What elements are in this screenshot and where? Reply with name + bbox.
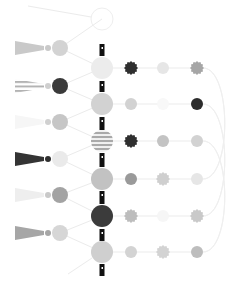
gear-node-icon[interactable] xyxy=(124,134,138,148)
knob-icon xyxy=(45,119,51,125)
right-node[interactable] xyxy=(157,210,169,222)
tassel-shape xyxy=(15,152,51,166)
spine-segment xyxy=(100,81,105,92)
gear-node-icon[interactable] xyxy=(156,245,170,259)
spine-segment xyxy=(100,229,105,241)
knob-icon xyxy=(45,156,51,162)
curved-edge xyxy=(203,104,225,216)
left-node[interactable] xyxy=(52,225,68,241)
gear-node-icon[interactable] xyxy=(190,61,204,75)
edge xyxy=(68,258,92,274)
center-node-striped[interactable] xyxy=(91,130,113,152)
tassel-shape xyxy=(15,188,51,202)
knob-icon xyxy=(45,45,51,51)
gear-node-icon[interactable] xyxy=(156,172,170,186)
left-node[interactable] xyxy=(52,114,68,130)
curved-edge xyxy=(203,68,225,179)
spine-notch xyxy=(102,232,104,234)
tassels-layer xyxy=(15,41,51,240)
curved-edge xyxy=(203,141,225,252)
tassel-shape xyxy=(15,115,51,129)
spine-notch xyxy=(102,267,104,269)
right-node[interactable] xyxy=(191,246,203,258)
curved-edge xyxy=(203,104,225,216)
center-node[interactable] xyxy=(91,57,113,79)
left-node[interactable] xyxy=(52,187,68,203)
left-node[interactable] xyxy=(52,151,68,167)
center-node[interactable] xyxy=(91,205,113,227)
right-node[interactable] xyxy=(157,135,169,147)
edge xyxy=(28,6,91,17)
spine-notch xyxy=(102,120,104,122)
right-node[interactable] xyxy=(157,98,169,110)
spine-segment xyxy=(100,191,105,204)
spine-segment xyxy=(100,153,105,167)
right-node[interactable] xyxy=(157,62,169,74)
left-nodes-layer xyxy=(52,40,68,241)
knob-icon xyxy=(45,230,51,236)
right-node[interactable] xyxy=(125,173,137,185)
gear-node-icon[interactable] xyxy=(124,209,138,223)
knob-icon xyxy=(45,83,51,89)
gear-node-icon[interactable] xyxy=(190,209,204,223)
center-node[interactable] xyxy=(91,168,113,190)
right-node[interactable] xyxy=(191,98,203,110)
knob-icon xyxy=(45,192,51,198)
right-nodes-layer xyxy=(124,61,204,259)
curved-edge xyxy=(203,141,225,252)
center-node[interactable] xyxy=(91,241,113,263)
right-node[interactable] xyxy=(191,173,203,185)
left-node[interactable] xyxy=(52,78,68,94)
right-node[interactable] xyxy=(191,135,203,147)
spine-segment xyxy=(100,44,105,56)
spine-notch xyxy=(102,194,104,196)
spine-notch xyxy=(102,84,104,86)
network-diagram xyxy=(0,0,244,295)
right-node[interactable] xyxy=(125,246,137,258)
spine-notch xyxy=(102,47,104,49)
spine-notch xyxy=(102,156,104,158)
left-node[interactable] xyxy=(52,40,68,56)
curved-edge xyxy=(203,68,225,179)
tassel-shape xyxy=(15,226,51,240)
gear-node-icon[interactable] xyxy=(124,61,138,75)
diagram-canvas xyxy=(0,0,244,295)
tassel-shape xyxy=(15,41,51,55)
center-node[interactable] xyxy=(91,93,113,115)
right-node[interactable] xyxy=(125,98,137,110)
tassel-shape xyxy=(15,79,51,93)
spine-segment xyxy=(100,264,105,276)
spine-segment xyxy=(100,117,105,130)
